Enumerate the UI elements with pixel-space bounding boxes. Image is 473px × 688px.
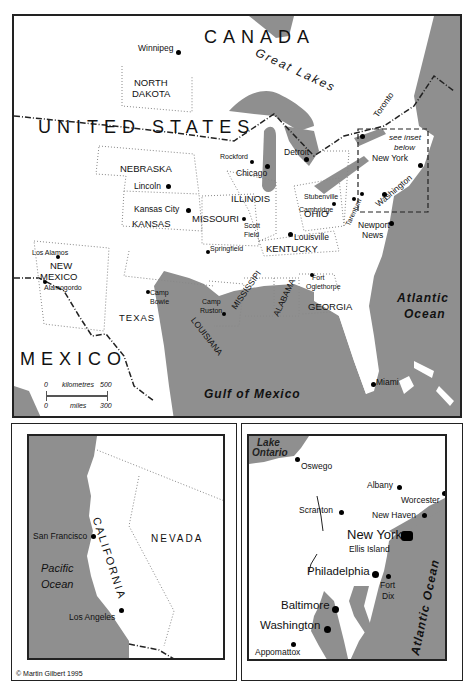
california-inset-map: CALIFORNIA NEVADA San Francisco Pacific … <box>27 434 225 660</box>
city-dot-rockford <box>250 160 254 164</box>
city-newport-news-2: News <box>362 231 383 240</box>
label-pacific: Pacific <box>41 563 73 574</box>
city-kansas-city: Kansas City <box>134 205 179 214</box>
scale-km-label: kilometres <box>62 381 94 388</box>
city-worcester: Worcester <box>401 496 440 505</box>
city-dot-lincoln <box>166 184 171 189</box>
city-washington: Washington <box>260 620 320 632</box>
scale-mi-start: 0 <box>44 402 48 409</box>
city-newport-news: Newport <box>358 221 390 230</box>
city-oswego: Oswego <box>301 462 332 471</box>
label-lake-ontario-2: Ontario <box>252 448 288 458</box>
scale-line-2 <box>46 396 108 401</box>
city-fort-dix-2: Dix <box>382 592 394 601</box>
scale-mi-end: 300 <box>100 402 112 409</box>
city-dot-detroit <box>304 157 309 162</box>
northeast-inset: Lake Ontario Atlantic Ocean Oswego Alban… <box>241 423 463 681</box>
california-inset: CALIFORNIA NEVADA San Francisco Pacific … <box>11 423 237 681</box>
northeast-inset-map: Lake Ontario Atlantic Ocean Oswego Alban… <box>247 434 447 661</box>
label-mexico: MEXICO <box>20 350 127 368</box>
city-springfield: Springfield <box>210 245 243 252</box>
city-los-angeles: Los Angeles <box>69 613 115 622</box>
city-miami: Miami <box>376 378 399 387</box>
city-ellis-island: Ellis Island <box>349 545 390 554</box>
label-atlantic-ocean: Ocean <box>404 308 446 320</box>
state-nevada: NEVADA <box>151 534 203 544</box>
state-new-mexico: NEW <box>50 261 72 271</box>
city-dot-louisville <box>288 232 293 237</box>
city-dot-miami <box>371 382 376 387</box>
city-camp-ruston-2: Ruston <box>200 307 222 314</box>
city-dot-tarentum <box>360 192 364 196</box>
city-rockford: Rockford <box>220 153 248 160</box>
city-dot-kansas-city <box>186 208 191 213</box>
lake-ontario <box>354 128 386 146</box>
state-illinois: ILLINOIS <box>231 194 270 204</box>
label-canada: CANADA <box>204 28 315 46</box>
city-dot-toronto <box>360 134 365 139</box>
scale-km-start: 0 <box>44 381 48 388</box>
city-dot-baltimore <box>332 606 339 613</box>
city-dot-albany <box>397 485 402 490</box>
city-stubenville: Stubenville <box>304 193 338 200</box>
city-dot-alamogordo <box>43 280 47 284</box>
scale-mi-label: miles <box>70 402 86 409</box>
city-scott-field: Scott <box>244 222 260 229</box>
state-missouri: MISSOURI <box>192 214 239 224</box>
city-scranton: Scranton <box>299 506 333 515</box>
canada-us-border <box>14 76 454 156</box>
city-dot-scott-field <box>242 217 246 221</box>
city-camp-bowie-2: Bowie <box>150 298 169 305</box>
main-map: CANADA UNITED STATES MEXICO Great Lakes … <box>12 14 462 418</box>
city-new-york: New York <box>372 154 408 163</box>
city-dot-new-haven <box>422 513 427 518</box>
city-albany: Albany <box>367 481 393 490</box>
label-atlantic: Atlantic <box>397 292 449 304</box>
city-camp-bowie: Camp <box>150 289 169 296</box>
city-dot-fort-oglethorpe <box>310 273 314 277</box>
city-dot-camp-bowie <box>146 290 150 294</box>
inset-note: see inset <box>389 134 421 142</box>
city-lincoln: Lincoln <box>134 182 161 191</box>
city-dot-oswego <box>295 457 300 462</box>
city-los-alamos: Los Alamos <box>32 249 68 256</box>
california-geography <box>29 436 225 660</box>
lake-huron <box>284 126 319 166</box>
state-nebraska: NEBRASKA <box>120 164 172 174</box>
city-dot-los-alamos <box>56 255 60 259</box>
city-baltimore: Baltimore <box>281 600 330 612</box>
city-cambridge: Cambridge <box>299 206 333 213</box>
label-united-states: UNITED STATES <box>38 118 255 136</box>
city-dot-philadelphia <box>372 571 379 578</box>
city-dot-new-york <box>418 163 423 168</box>
state-texas: TEXAS <box>119 313 155 323</box>
city-dot-chicago <box>265 164 270 169</box>
city-dot-washington <box>324 626 331 633</box>
city-dot-cambridge <box>332 202 336 206</box>
lake-michigan <box>262 127 276 192</box>
city-winnipeg: Winnipeg <box>138 44 173 53</box>
label-pacific-ocean: Ocean <box>41 579 73 590</box>
state-kentucky: KENTUCKY <box>266 244 318 254</box>
city-louisville: Louisville <box>294 233 329 242</box>
pacific-water-sw <box>14 386 42 418</box>
city-dot-worcester <box>442 491 447 496</box>
city-dot-scranton <box>339 510 344 515</box>
city-dot-springfield <box>206 250 210 254</box>
city-dot-newport-news <box>389 221 394 226</box>
city-chicago: Chicago <box>236 169 267 178</box>
city-dot-camp-ruston <box>222 312 226 316</box>
city-san-francisco: San Francisco <box>33 532 87 541</box>
city-new-haven: New Haven <box>372 511 416 520</box>
city-fort-oglethorpe-2: Oglethorpe <box>306 283 341 290</box>
city-dot-san-francisco <box>91 534 96 539</box>
city-alamogordo: Alamogordo <box>44 284 82 291</box>
scale-km-end: 500 <box>100 381 112 388</box>
copyright: © Martin Gilbert 1995 <box>16 670 83 677</box>
city-new-york: New York <box>347 528 402 541</box>
city-dot-fort-dix <box>386 574 391 579</box>
state-north-dakota: NORTH <box>134 78 168 88</box>
pacific-water <box>29 436 129 660</box>
city-philadelphia: Philadelphia <box>307 566 370 578</box>
city-dot-washington <box>382 192 387 197</box>
